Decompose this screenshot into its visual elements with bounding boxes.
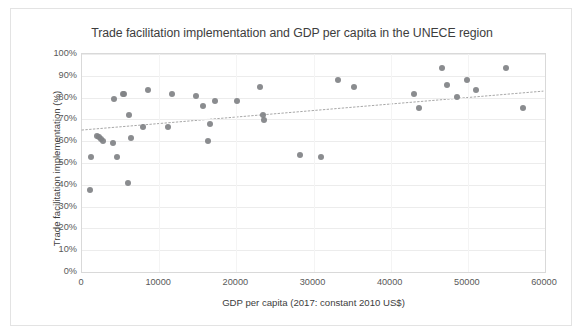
gridline-vertical: [236, 54, 237, 272]
x-axis-tick-label: 20000: [223, 277, 249, 287]
gridline-vertical: [314, 54, 315, 272]
data-point[interactable]: [503, 65, 509, 71]
data-point[interactable]: [473, 87, 479, 93]
data-point[interactable]: [454, 94, 460, 100]
gridline-vertical: [391, 54, 392, 272]
data-point[interactable]: [351, 84, 357, 90]
x-axis-tick-label: 50000: [454, 277, 480, 287]
y-axis-tick-label: 60%: [33, 135, 77, 145]
plot-area: [81, 53, 546, 273]
data-point[interactable]: [110, 140, 116, 146]
data-point[interactable]: [261, 117, 267, 123]
x-axis-tick-label: 0: [78, 277, 83, 287]
x-axis-tick-labels: 0100002000030000400005000060000: [81, 277, 546, 291]
y-axis-tick-label: 40%: [33, 179, 77, 189]
data-point[interactable]: [207, 121, 213, 127]
data-point[interactable]: [88, 154, 94, 160]
data-point[interactable]: [140, 124, 146, 130]
y-axis-tick-label: 30%: [33, 201, 77, 211]
x-axis-tick-label: 60000: [531, 277, 557, 287]
data-point[interactable]: [520, 105, 526, 111]
data-point[interactable]: [100, 138, 106, 144]
data-point[interactable]: [111, 96, 117, 102]
data-point[interactable]: [165, 124, 171, 130]
y-axis-tick-label: 0%: [33, 266, 77, 276]
y-axis-tick-label: 100%: [33, 48, 77, 58]
data-point[interactable]: [439, 65, 445, 71]
y-axis-tick-label: 20%: [33, 222, 77, 232]
data-point[interactable]: [335, 77, 341, 83]
data-point[interactable]: [464, 77, 470, 83]
data-point[interactable]: [212, 98, 218, 104]
data-point[interactable]: [416, 105, 422, 111]
x-axis-label: GDP per capita (2017: constant 2010 US$): [81, 297, 546, 308]
chart-title: Trade facilitation implementation and GD…: [11, 26, 573, 40]
y-axis-tick-label: 10%: [33, 244, 77, 254]
x-axis-tick-label: 30000: [300, 277, 326, 287]
x-axis-tick-label: 40000: [377, 277, 403, 287]
data-point[interactable]: [121, 91, 127, 97]
y-axis-tick-labels: 0%10%20%30%40%50%60%70%80%90%100%: [29, 53, 77, 273]
x-axis-tick-label: 10000: [145, 277, 171, 287]
data-point[interactable]: [257, 84, 263, 90]
y-axis-tick-label: 70%: [33, 113, 77, 123]
data-point[interactable]: [125, 180, 131, 186]
chart-card: Trade facilitation implementation and GD…: [10, 8, 572, 326]
data-point[interactable]: [126, 112, 132, 118]
data-point[interactable]: [205, 138, 211, 144]
data-point[interactable]: [411, 91, 417, 97]
data-point[interactable]: [87, 187, 93, 193]
data-point[interactable]: [318, 154, 324, 160]
data-point[interactable]: [444, 82, 450, 88]
data-point[interactable]: [145, 87, 151, 93]
gridline-vertical: [468, 54, 469, 272]
gridline-vertical: [159, 54, 160, 272]
data-point[interactable]: [297, 152, 303, 158]
y-axis-tick-label: 50%: [33, 157, 77, 167]
data-point[interactable]: [114, 154, 120, 160]
data-point[interactable]: [169, 91, 175, 97]
y-axis-tick-label: 90%: [33, 70, 77, 80]
data-point[interactable]: [234, 98, 240, 104]
y-axis-tick-label: 80%: [33, 92, 77, 102]
data-point[interactable]: [200, 103, 206, 109]
